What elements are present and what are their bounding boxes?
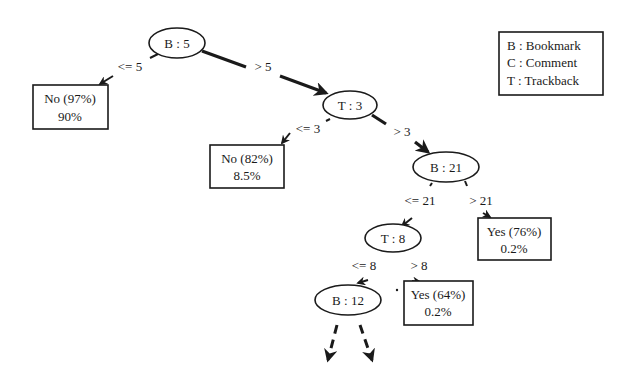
edge-b12-right-dashed <box>360 325 372 360</box>
node-label: B : 21 <box>430 160 462 175</box>
leaf-yes-64: Yes (64%) 0.2% <box>404 281 473 325</box>
legend-item-bookmark: B : Bookmark <box>507 38 581 53</box>
node-t3: T : 3 <box>323 91 377 119</box>
node-label: B : 12 <box>332 293 364 308</box>
leaf-class: Yes (64%) <box>411 287 466 302</box>
edge-label-t3-le: <= 3 <box>296 121 320 136</box>
stray-dot <box>396 289 398 291</box>
leaf-share: 8.5% <box>233 168 260 183</box>
edge-label-t3-gt: > 3 <box>393 124 410 139</box>
edge-label-t8-gt: > 8 <box>410 258 427 273</box>
leaf-yes-76: Yes (76%) 0.2% <box>478 218 551 260</box>
leaf-share: 0.2% <box>500 241 527 256</box>
leaf-no-97: No (97%) 90% <box>33 85 108 129</box>
node-label: T : 3 <box>338 98 362 113</box>
node-b21: B : 21 <box>413 152 479 182</box>
edge-label-root-le: <= 5 <box>118 59 142 74</box>
node-root-b5: B : 5 <box>149 28 205 58</box>
legend-item-comment: C : Comment <box>507 55 577 70</box>
leaf-class: Yes (76%) <box>487 224 542 239</box>
leaf-share: 0.2% <box>424 304 451 319</box>
node-b12: B : 12 <box>315 285 381 315</box>
node-t8: T : 8 <box>365 224 421 252</box>
leaf-class: No (97%) <box>44 91 96 106</box>
legend: B : Bookmark C : Comment T : Trackback <box>499 32 603 95</box>
edge-label-b21-gt: > 21 <box>469 193 493 208</box>
edge-t8-le <box>358 280 368 283</box>
edge-label-root-gt: > 5 <box>254 59 271 74</box>
leaf-class: No (82%) <box>221 151 273 166</box>
edge-label-t8-le: <= 8 <box>352 258 376 273</box>
legend-item-trackback: T : Trackback <box>507 73 579 88</box>
edge-label-b21-le: <= 21 <box>405 193 436 208</box>
edge-b12-left-dashed <box>328 325 337 360</box>
leaf-no-82: No (82%) 8.5% <box>210 145 284 188</box>
node-label: T : 8 <box>381 231 405 246</box>
node-label: B : 5 <box>164 36 189 51</box>
leaf-share: 90% <box>58 109 82 124</box>
decision-tree-diagram: <= 5 > 5 <= 3 > 3 <= 21 > 21 <= 8 > 8 B … <box>0 0 619 378</box>
